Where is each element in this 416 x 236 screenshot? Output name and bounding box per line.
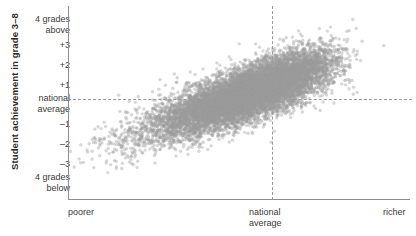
y-axis-tick-label: –2 [0, 139, 70, 150]
y-axis-tick-label: 4 gradesbelow [0, 172, 70, 193]
y-axis-tick-label: +3 [0, 40, 70, 51]
y-tick-line2: below [0, 183, 70, 194]
x-axis-line [68, 199, 410, 200]
y-tick-line1: 4 grades [0, 14, 70, 25]
scatter-chart: Student achievement in grade 3–8 4 grade… [0, 0, 416, 236]
x-axis-tick-label: nationalaverage [249, 207, 282, 229]
y-axis-tick-label: –1 [0, 119, 70, 130]
y-tick-line1: 4 grades [0, 172, 70, 183]
plot-area [68, 6, 412, 199]
x-tick-line1: poorer [68, 207, 94, 218]
x-tick-line1: richer [383, 207, 406, 218]
y-tick-line1: –2 [0, 139, 70, 150]
reference-line-vertical-national-average [272, 6, 273, 200]
reference-line-horizontal-national-average [68, 99, 412, 100]
y-tick-line1: national [0, 93, 70, 104]
scatter-points-layer [68, 6, 412, 199]
y-tick-line1: –1 [0, 119, 70, 130]
y-axis-tick-label: –3 [0, 159, 70, 170]
y-tick-line1: +2 [0, 60, 70, 71]
y-axis-tick-label: 4 gradesabove [0, 14, 70, 35]
y-tick-line1: –3 [0, 159, 70, 170]
y-axis-tick-label: +1 [0, 80, 70, 91]
x-tick-line2: average [249, 218, 282, 229]
y-axis-tick-label: nationalaverage [0, 93, 70, 114]
x-tick-line1: national [249, 207, 282, 218]
y-tick-line1: +1 [0, 80, 70, 91]
x-axis-tick-label: poorer [68, 207, 94, 218]
y-tick-line2: above [0, 25, 70, 36]
x-axis-tick-label: richer [383, 207, 406, 218]
y-tick-line2: average [0, 104, 70, 115]
y-axis-tick-label: +2 [0, 60, 70, 71]
y-tick-line1: +3 [0, 40, 70, 51]
